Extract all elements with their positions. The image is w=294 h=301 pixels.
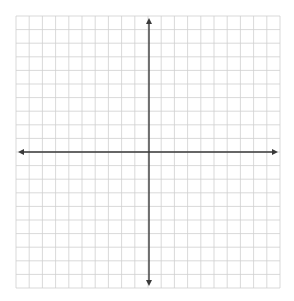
arrow-right-icon (272, 149, 278, 155)
arrow-down-icon (146, 280, 152, 286)
arrow-left-icon (18, 149, 24, 155)
coordinate-plane (0, 0, 294, 301)
arrow-up-icon (146, 18, 152, 24)
